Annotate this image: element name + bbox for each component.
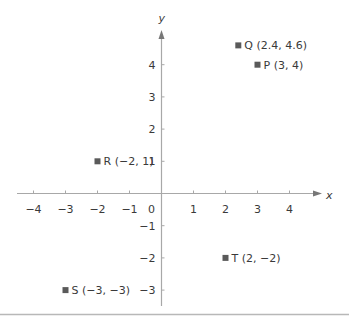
y-tick-label: −2	[139, 252, 155, 265]
point-label: P (3, 4)	[264, 59, 304, 72]
point-label: S (−3, −3)	[72, 284, 131, 297]
point-marker-icon	[223, 255, 229, 261]
points: Q (2.4, 4.6)P (3, 4)R (−2, 1)T (2, −2)S …	[63, 39, 308, 297]
x-tick-label: −3	[57, 203, 73, 216]
point-label: Q (2.4, 4.6)	[244, 39, 307, 52]
x-tick-label: −1	[121, 203, 137, 216]
point-label: R (−2, 1)	[104, 155, 154, 168]
point-marker-icon	[255, 62, 261, 68]
x-tick-label: 4	[286, 203, 293, 216]
x-axis-label: x	[325, 189, 333, 202]
point-t: T (2, −2)	[223, 252, 281, 265]
origin-label: 0	[148, 203, 155, 216]
point-r: R (−2, 1)	[95, 155, 154, 168]
coordinate-plane: xy −4−3−2−1123404321−1−2−3 Q (2.4, 4.6)P…	[0, 0, 349, 320]
y-tick-label: 4	[149, 59, 156, 72]
x-tick-label: −4	[25, 203, 41, 216]
y-tick-label: −3	[139, 284, 155, 297]
point-marker-icon	[95, 158, 101, 164]
point-s: S (−3, −3)	[63, 284, 131, 297]
point-label: T (2, −2)	[231, 252, 281, 265]
y-tick-label: 2	[149, 123, 156, 136]
axes: xy	[17, 12, 333, 306]
y-tick-label: 3	[149, 91, 156, 104]
point-marker-icon	[235, 42, 241, 48]
y-tick-label: −1	[139, 220, 155, 233]
y-axis-arrow-icon	[159, 30, 165, 39]
x-tick-label: −2	[89, 203, 105, 216]
x-tick-label: 1	[190, 203, 197, 216]
y-axis-label: y	[158, 12, 166, 25]
x-tick-label: 2	[222, 203, 229, 216]
point-p: P (3, 4)	[255, 59, 304, 72]
x-tick-label: 3	[254, 203, 261, 216]
x-axis-arrow-icon	[313, 191, 322, 197]
point-q: Q (2.4, 4.6)	[235, 39, 307, 52]
point-marker-icon	[63, 287, 69, 293]
